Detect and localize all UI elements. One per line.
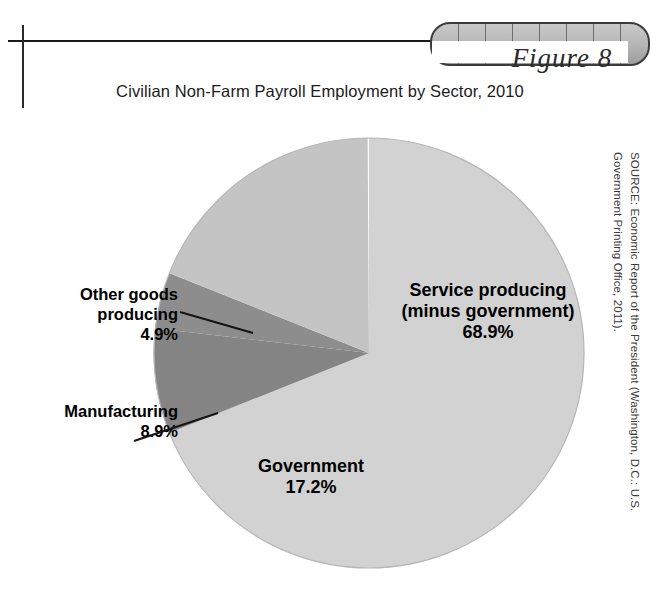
pie-chart	[153, 137, 585, 569]
chart-title: Civilian Non-Farm Payroll Employment by …	[40, 82, 600, 101]
header-left-tick	[22, 25, 24, 108]
source-note: SOURCE: Economic Report of the President…	[609, 152, 644, 572]
pie-label-service: Service producing (minus government) 68.…	[372, 280, 604, 344]
figure-number-label: Figure 8	[492, 43, 632, 74]
pie-label-other-goods: Other goods producing 4.9%	[18, 285, 178, 344]
pie-label-manufacturing: Manufacturing 8.9%	[12, 402, 178, 442]
pie-chart-svg	[153, 137, 585, 569]
pie-label-government: Government 17.2%	[222, 456, 400, 498]
